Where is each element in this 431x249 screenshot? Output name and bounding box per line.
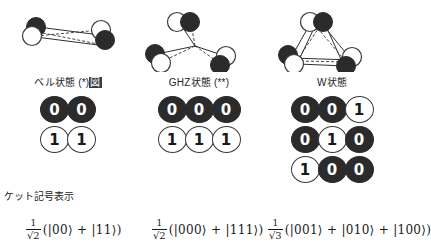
qubit-bit: 0 xyxy=(318,96,347,123)
qubit-bit: 1 xyxy=(212,126,241,153)
qubit-bit: 0 xyxy=(291,96,320,123)
bit-row: 0 1 0 xyxy=(266,126,398,153)
qubit-bit: 1 xyxy=(67,126,96,153)
state-label-bell-highlight: 図 xyxy=(89,77,101,88)
state-label-w-text: W状態 xyxy=(317,77,347,88)
qubit-bit: 0 xyxy=(67,96,96,123)
ket-expression: (|001⟩ + |010⟩ + |100⟩) xyxy=(285,223,431,237)
qubit-bit: 0 xyxy=(212,96,241,123)
qubit-bit: 0 xyxy=(345,126,374,153)
bit-row: 1 1 xyxy=(2,126,134,153)
state-label-ghz: GHZ状態 (**) xyxy=(133,74,265,89)
ket-notation-caption: ケット記号表示 xyxy=(4,188,74,203)
bit-rows-w: 0 0 1 0 1 0 1 0 0 xyxy=(266,96,398,186)
bit-row: 1 0 0 xyxy=(266,156,398,183)
w-triangle-diagram xyxy=(266,2,398,72)
bit-row: 0 0 xyxy=(2,96,134,123)
formula-w: 1 √3 (|001⟩ + |010⟩ + |100⟩) xyxy=(268,213,431,247)
fraction-numerator: 1 xyxy=(31,219,37,229)
bit-row: 0 0 0 xyxy=(133,96,265,123)
ket-expression: (|00⟩ + |11⟩) xyxy=(43,223,122,237)
fraction-numerator: 1 xyxy=(157,219,163,229)
fraction-numerator: 1 xyxy=(273,219,279,229)
qubit-bit: 1 xyxy=(345,96,374,123)
coefficient-fraction: 1 √2 xyxy=(26,219,41,241)
coefficient-fraction: 1 √3 xyxy=(268,219,283,241)
qubit-bit: 1 xyxy=(291,156,320,183)
qubit-bit: 1 xyxy=(158,126,187,153)
bit-row: 1 1 1 xyxy=(133,126,265,153)
qubit-bit: 1 xyxy=(40,126,69,153)
qubit-bit: 0 xyxy=(40,96,69,123)
qubit-bit: 1 xyxy=(318,126,347,153)
qubit-bit: 1 xyxy=(185,126,214,153)
qubit-bit: 0 xyxy=(318,156,347,183)
state-column-bell: ベル状態 (*)図 0 0 1 1 xyxy=(2,0,134,200)
ket-expression: (|000⟩ + |111⟩) xyxy=(169,223,264,237)
qubit-bit: 0 xyxy=(345,156,374,183)
fraction-denominator: √2 xyxy=(26,229,41,241)
fraction-denominator: √2 xyxy=(152,229,167,241)
fraction-denominator: √3 xyxy=(268,229,283,241)
formula-ghz: 1 √2 (|000⟩ + |111⟩) xyxy=(152,213,264,247)
state-label-ghz-text: GHZ状態 (**) xyxy=(169,77,229,88)
bit-row: 0 0 1 xyxy=(266,96,398,123)
state-label-bell-text: ベル状態 (*) xyxy=(34,77,89,88)
bit-rows-bell: 0 0 1 1 xyxy=(2,96,134,156)
ghz-star-diagram xyxy=(133,2,265,72)
coefficient-fraction: 1 √2 xyxy=(152,219,167,241)
qubit-bit: 0 xyxy=(291,126,320,153)
formula-bell: 1 √2 (|00⟩ + |11⟩) xyxy=(26,213,122,247)
qubit-bit: 0 xyxy=(185,96,214,123)
qubit-bit: 0 xyxy=(158,96,187,123)
state-label-bell: ベル状態 (*)図 xyxy=(2,74,134,89)
state-label-w: W状態 xyxy=(266,74,398,89)
bell-pair-diagram xyxy=(2,2,134,72)
state-column-w: W状態 0 0 1 0 1 0 1 0 0 xyxy=(266,0,398,200)
bit-rows-ghz: 0 0 0 1 1 1 xyxy=(133,96,265,156)
state-column-ghz: GHZ状態 (**) 0 0 0 1 1 1 xyxy=(133,0,265,200)
